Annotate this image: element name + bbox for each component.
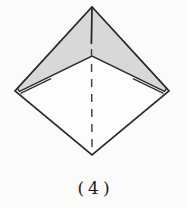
- step-caption: (4): [0, 178, 187, 198]
- center-slit-line: [91, 8, 92, 45]
- origami-step-diagram: [0, 0, 187, 208]
- origami-figure: (4): [0, 0, 187, 208]
